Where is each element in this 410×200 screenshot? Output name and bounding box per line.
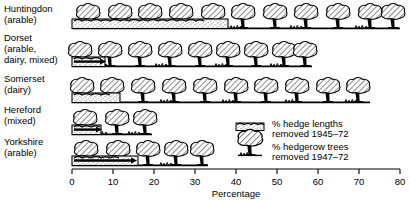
row-label-somerset: Somerset bbox=[4, 73, 45, 84]
row-dorset bbox=[68, 42, 317, 67]
x-axis-title: Percentage bbox=[212, 188, 261, 199]
x-axis-ticks bbox=[72, 169, 400, 174]
tick-label-50: 50 bbox=[272, 176, 283, 187]
row-label-dorset-qualifier2: dairy, mixed) bbox=[4, 54, 58, 65]
row-labels: Huntingdon (arable) Dorset (arable, dair… bbox=[4, 3, 58, 158]
row-label-dorset: Dorset bbox=[4, 32, 32, 43]
row-label-yorkshire: Yorkshire bbox=[4, 136, 43, 147]
tree-bar-dorset bbox=[68, 42, 317, 67]
row-label-huntingdon-qualifier: (arable) bbox=[4, 14, 37, 25]
row-yorkshire bbox=[72, 141, 214, 166]
row-label-yorkshire-qualifier: (arable) bbox=[4, 147, 37, 158]
hedge-bar-huntingdon bbox=[72, 19, 228, 29]
tick-label-0: 0 bbox=[69, 176, 74, 187]
hedge-bar-dorset bbox=[72, 57, 106, 67]
tick-label-30: 30 bbox=[190, 176, 201, 187]
tick-label-70: 70 bbox=[354, 176, 365, 187]
tick-label-40: 40 bbox=[231, 176, 242, 187]
tick-label-60: 60 bbox=[313, 176, 324, 187]
hedge-bar-yorkshire bbox=[72, 156, 138, 166]
hedge-bar-somerset bbox=[72, 93, 120, 103]
x-axis-tick-labels: 0 10 20 30 40 50 60 70 80 bbox=[69, 176, 405, 187]
row-hereford bbox=[72, 110, 157, 135]
row-somerset bbox=[70, 78, 370, 103]
tick-label-20: 20 bbox=[149, 176, 160, 187]
hedgerow-removal-chart: Huntingdon (arable) Dorset (arable, dair… bbox=[0, 0, 410, 200]
legend-hedge-line2: removed 1945–72 bbox=[272, 128, 349, 139]
x-axis: 0 10 20 30 40 50 60 70 80 Percentage bbox=[69, 169, 405, 199]
tick-label-80: 80 bbox=[395, 176, 406, 187]
tick-label-10: 10 bbox=[108, 176, 119, 187]
row-huntingdon bbox=[72, 4, 405, 29]
chart-svg: Huntingdon (arable) Dorset (arable, dair… bbox=[0, 0, 410, 200]
legend: % hedge lengths removed 1945–72 % hedger… bbox=[236, 118, 349, 162]
row-label-huntingdon: Huntingdon bbox=[4, 3, 53, 14]
hedge-bar-hereford bbox=[72, 125, 102, 135]
tree-icon bbox=[238, 129, 263, 155]
row-label-hereford-qualifier: (mixed) bbox=[4, 115, 36, 126]
legend-tree-line2: removed 1947–72 bbox=[272, 151, 349, 162]
row-label-somerset-qualifier: (dairy) bbox=[4, 84, 31, 95]
row-label-dorset-qualifier: (arable, bbox=[4, 43, 36, 54]
row-label-hereford: Hereford bbox=[4, 104, 41, 115]
